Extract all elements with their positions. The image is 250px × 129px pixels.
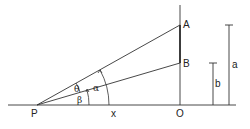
geometry-diagram: A B P O x a b θ α β (0, 0, 250, 129)
label-o: O (176, 108, 184, 119)
label-x: x (111, 108, 116, 119)
ray-pa (37, 25, 180, 105)
label-a-length: a (232, 59, 238, 70)
angle-alpha-arc (100, 70, 109, 105)
label-b-length: b (215, 78, 221, 89)
angle-beta-arc (87, 90, 89, 105)
label-a: A (183, 19, 190, 30)
label-p: P (31, 108, 38, 119)
label-theta: θ (74, 84, 79, 94)
label-beta: β (77, 95, 82, 105)
label-b: B (183, 58, 190, 69)
label-alpha: α (93, 83, 99, 93)
